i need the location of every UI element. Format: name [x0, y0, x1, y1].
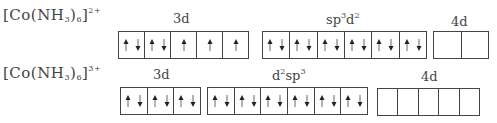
complex-formula-co-nh3-6-2plus: [Co(NH3)6]2+: [3, 6, 101, 24]
orbital-cell: [171, 32, 197, 58]
spin-up-arrow-icon: [233, 38, 239, 52]
spin-down-arrow-icon: [251, 94, 257, 108]
spin-up-arrow-icon: [319, 94, 325, 108]
spin-down-arrow-icon: [164, 94, 170, 108]
spin-up-arrow-icon: [178, 94, 184, 108]
label-3d: 3d: [173, 11, 190, 26]
orbital-cell: [315, 88, 342, 114]
orbital-cell: [462, 32, 489, 58]
orbital-cell: [261, 88, 288, 114]
spin-up-arrow-icon: [404, 38, 410, 52]
formula-text: [Co(NH: [3, 6, 64, 24]
label-d2sp3: d2sp3: [272, 67, 306, 83]
orbital-cell: [372, 32, 399, 58]
orbital-cell: [341, 88, 367, 114]
spin-down-arrow-icon: [388, 38, 394, 52]
spin-up-arrow-icon: [181, 38, 187, 52]
label-4d: 4d: [451, 14, 468, 29]
spin-down-arrow-icon: [224, 94, 230, 108]
spin-down-arrow-icon: [190, 94, 196, 108]
spin-up-arrow-icon: [239, 94, 245, 108]
orbital-cell: [148, 88, 175, 114]
orbital-group-d2sp3: [207, 87, 368, 115]
label-4d: 4d: [421, 69, 438, 84]
formula-charge: 2+: [88, 6, 101, 15]
spin-down-arrow-icon: [304, 94, 310, 108]
orbital-cell: [263, 32, 290, 58]
spin-up-arrow-icon: [267, 38, 273, 52]
label-3d: 3d: [153, 67, 170, 82]
orbital-group-4d: [433, 31, 489, 59]
formula-charge: 3+: [88, 64, 101, 73]
orbital-cell: [235, 88, 262, 114]
spin-down-arrow-icon: [306, 38, 312, 52]
orbital-group-4d: [377, 88, 480, 116]
orbital-cell: [119, 32, 145, 58]
orbital-cell: [460, 89, 479, 115]
spin-up-arrow-icon: [294, 38, 300, 52]
orbital-cell: [223, 32, 248, 58]
orbital-group-3d: [118, 31, 249, 59]
spin-down-arrow-icon: [416, 38, 422, 52]
spin-up-arrow-icon: [292, 94, 298, 108]
orbital-group-sp3d2: [262, 31, 427, 59]
spin-down-arrow-icon: [277, 94, 283, 108]
spin-down-arrow-icon: [161, 38, 167, 52]
label-part: sp: [285, 68, 300, 83]
orbital-cell: [398, 89, 418, 115]
orbital-cell: [318, 32, 345, 58]
spin-up-arrow-icon: [345, 94, 351, 108]
spin-down-arrow-icon: [357, 94, 363, 108]
orbital-cell: [378, 89, 398, 115]
spin-down-arrow-icon: [135, 38, 141, 52]
orbital-cell: [288, 88, 315, 114]
spin-down-arrow-icon: [279, 38, 285, 52]
orbital-cell: [290, 32, 317, 58]
complex-formula-co-nh3-6-3plus: [Co(NH3)6]3+: [3, 64, 101, 82]
label-part: sp: [326, 12, 341, 27]
formula-text: [Co(NH: [3, 64, 64, 82]
label-sup: 2: [354, 11, 359, 20]
orbital-cell: [174, 88, 200, 114]
orbital-cell: [434, 32, 462, 58]
spin-up-arrow-icon: [207, 38, 213, 52]
label-sp3d2: sp3d2: [326, 11, 360, 27]
orbital-cell: [208, 88, 235, 114]
orbital-cell: [197, 32, 223, 58]
orbital-group-3d: [120, 87, 201, 115]
spin-down-arrow-icon: [361, 38, 367, 52]
orbital-cell: [400, 32, 426, 58]
orbital-cell: [345, 32, 372, 58]
spin-down-arrow-icon: [137, 94, 143, 108]
spin-up-arrow-icon: [265, 94, 271, 108]
orbital-cell: [145, 32, 171, 58]
spin-up-arrow-icon: [376, 38, 382, 52]
orbital-cell: [439, 89, 459, 115]
spin-up-arrow-icon: [349, 38, 355, 52]
spin-up-arrow-icon: [149, 38, 155, 52]
orbital-cell: [121, 88, 148, 114]
spin-up-arrow-icon: [125, 94, 131, 108]
label-sup: 3: [300, 67, 305, 76]
spin-down-arrow-icon: [331, 94, 337, 108]
spin-up-arrow-icon: [212, 94, 218, 108]
spin-up-arrow-icon: [123, 38, 129, 52]
orbital-cell: [419, 89, 439, 115]
spin-down-arrow-icon: [334, 38, 340, 52]
spin-up-arrow-icon: [322, 38, 328, 52]
spin-up-arrow-icon: [152, 94, 158, 108]
